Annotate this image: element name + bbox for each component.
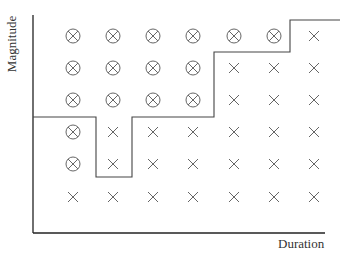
x-icon <box>68 192 78 202</box>
y-axis-label-text: Magnitude <box>4 16 20 72</box>
x-icon <box>309 127 319 137</box>
circled-x-icon <box>146 29 160 43</box>
x-icon <box>229 63 239 73</box>
x-icon <box>148 192 158 202</box>
circled-x-icon <box>146 93 160 107</box>
circled-x-icon <box>267 29 281 43</box>
circled-x-icon <box>146 61 160 75</box>
circled-x-icon <box>186 93 200 107</box>
x-icon <box>269 127 279 137</box>
circled-x-icon <box>106 29 120 43</box>
x-icon <box>188 192 198 202</box>
y-axis-label: Magnitude <box>4 14 20 74</box>
x-icon <box>188 127 198 137</box>
x-icon <box>309 31 319 41</box>
circled-x-icon <box>66 125 80 139</box>
circled-x-icon <box>66 93 80 107</box>
x-icon <box>148 159 158 169</box>
x-axis-label: Duration <box>278 236 324 252</box>
circled-x-icon <box>227 29 241 43</box>
x-icon <box>269 63 279 73</box>
circled-x-icon <box>66 29 80 43</box>
x-icon <box>229 95 239 105</box>
x-icon <box>229 192 239 202</box>
x-icon <box>148 127 158 137</box>
x-icon <box>309 159 319 169</box>
x-icon <box>269 159 279 169</box>
x-icon <box>108 159 118 169</box>
x-icon <box>188 159 198 169</box>
x-icon <box>309 63 319 73</box>
x-icon <box>269 95 279 105</box>
x-icon <box>309 95 319 105</box>
circled-x-icon <box>106 61 120 75</box>
x-icon <box>229 159 239 169</box>
diagram-canvas <box>0 0 353 263</box>
x-icon <box>309 192 319 202</box>
circled-x-icon <box>186 61 200 75</box>
x-icon <box>108 127 118 137</box>
circled-x-icon <box>66 61 80 75</box>
x-icon <box>269 192 279 202</box>
circled-x-icon <box>106 93 120 107</box>
x-icon <box>108 192 118 202</box>
symbol-grid <box>66 29 319 202</box>
x-icon <box>229 127 239 137</box>
circled-x-icon <box>186 29 200 43</box>
circled-x-icon <box>66 157 80 171</box>
